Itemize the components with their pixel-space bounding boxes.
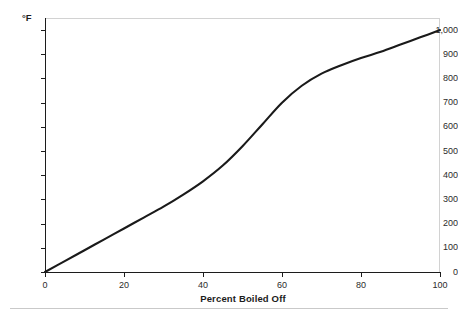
y-axis-tick [41,248,45,249]
y-axis-tick-label: 900 [420,50,458,59]
y-axis-unit-label: °F [22,13,32,23]
x-axis-tick-label: 60 [267,280,297,290]
y-axis-tick [41,199,45,200]
x-axis-tick-label: 100 [425,280,455,290]
y-axis-tick-label: 300 [420,195,458,204]
y-axis-tick [41,30,45,31]
x-axis-tick [440,273,441,277]
y-axis-tick-label: 100 [420,243,458,252]
x-axis-tick [124,273,125,277]
y-axis-tick-label: 600 [420,122,458,131]
x-axis-tick-label: 0 [30,280,60,290]
bottom-divider [10,308,448,309]
x-axis-tick [282,273,283,277]
x-axis-tick [203,273,204,277]
x-axis-tick [45,273,46,277]
y-axis-tick [41,151,45,152]
x-axis-tick-label: 80 [346,280,376,290]
x-axis-line [45,272,441,273]
x-axis-tick-label: 40 [188,280,218,290]
x-axis-title: Percent Boiled Off [45,293,441,304]
y-axis-tick [41,78,45,79]
y-axis-tick [41,224,45,225]
y-axis-tick [41,103,45,104]
y-axis-line [45,18,46,273]
y-axis-tick [41,54,45,55]
y-axis-tick-label: 1,000 [420,26,458,35]
x-axis-tick-label: 20 [109,280,139,290]
x-axis-tick [361,273,362,277]
y-axis-tick-label: 700 [420,98,458,107]
y-axis-tick-label: 200 [420,219,458,228]
y-axis-tick [41,127,45,128]
y-axis-tick-label: 0 [420,268,458,277]
y-axis-tick [41,175,45,176]
chart-container: °F 01002003004005006007008009001,000 020… [0,0,458,314]
y-axis-tick-label: 500 [420,147,458,156]
plot-area-frame [45,18,440,272]
y-axis-tick-label: 400 [420,171,458,180]
y-axis-tick-label: 800 [420,74,458,83]
